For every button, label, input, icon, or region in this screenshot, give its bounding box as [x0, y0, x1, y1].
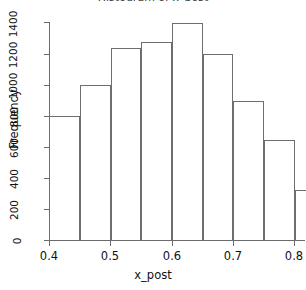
plot-area: 0 200 400 600 800 1000 1200 1400 0.4: [0, 0, 306, 290]
histogram-bar: [80, 85, 111, 241]
x-tick-label-0.4: 0.4: [29, 249, 69, 263]
histogram-bar: [264, 140, 295, 241]
histogram-bar: [295, 190, 306, 241]
y-axis-title: Frequency: [7, 59, 21, 179]
x-tick-label-0.8: 0.8: [274, 249, 306, 263]
y-tick-label-0: 0: [0, 235, 40, 245]
histogram-bar: [49, 116, 80, 241]
y-tick-label-200: 200: [0, 204, 40, 214]
x-tick-label-0.5: 0.5: [90, 249, 130, 263]
y-tick-1400: [44, 22, 49, 23]
y-tick-label-1400: 1400: [0, 18, 40, 28]
histogram-bar: [141, 42, 172, 241]
x-tick-label-0.7: 0.7: [213, 249, 253, 263]
histogram-bar: [111, 48, 141, 241]
y-tick-label-1200: 1200: [0, 49, 40, 59]
histogram-bar: [233, 101, 264, 241]
x-tick-0.7: [233, 241, 234, 246]
x-tick-0.5: [110, 241, 111, 246]
x-axis-title: x_post: [0, 268, 306, 282]
y-tick-label-text: 1400: [7, 11, 19, 38]
y-tick-1000: [44, 85, 49, 86]
x-tick-0.4: [49, 241, 50, 246]
y-tick-label-text: 0: [11, 238, 23, 245]
x-tick-0.8: [294, 241, 295, 246]
histogram-figure: Histogram of x_post 0 200 400 600 800 10…: [0, 0, 306, 290]
histogram-bar: [172, 23, 203, 241]
y-tick-1200: [44, 54, 49, 55]
x-tick-0.6: [172, 241, 173, 246]
x-tick-label-0.6: 0.6: [152, 249, 192, 263]
y-tick-label-text: 200: [8, 200, 20, 220]
histogram-bar: [203, 54, 233, 241]
